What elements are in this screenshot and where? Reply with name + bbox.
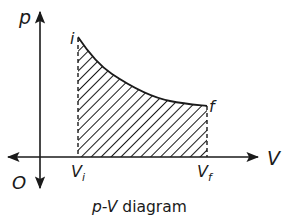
origin-label: O: [12, 172, 26, 193]
work-area-hatch: [78, 37, 207, 157]
vi-tick-label: Vi: [71, 162, 85, 184]
p-v-diagram: p V O i f Vi Vf p-V diagram: [0, 0, 289, 220]
initial-point-label: i: [70, 29, 75, 48]
vi-sub: i: [82, 171, 85, 184]
caption-text: diagram: [117, 198, 186, 216]
p-axis-label: p: [18, 6, 31, 28]
vf-sub: f: [208, 171, 214, 184]
v-axis-label: V: [267, 147, 282, 169]
vf-tick-label: Vf: [197, 162, 214, 184]
final-point-label: f: [209, 97, 217, 116]
diagram-caption: p-V diagram: [91, 198, 187, 216]
caption-italic: p-V: [91, 198, 119, 216]
